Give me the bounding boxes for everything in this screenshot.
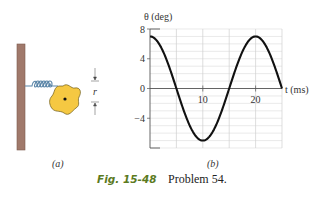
panel-a-label: (a) xyxy=(52,158,64,169)
y-tick-label: 8 xyxy=(140,24,145,35)
panel-a: r xyxy=(17,44,99,150)
y-tick-label: 0 xyxy=(140,83,145,94)
chart: 840−41020θ (deg)t (ms) xyxy=(134,11,308,148)
dimension-label: r xyxy=(93,86,97,97)
x-axis-label: t (ms) xyxy=(285,84,309,96)
figure-caption: Fig. 15-48 Problem 54. xyxy=(97,172,327,187)
x-tick-label: 10 xyxy=(198,94,208,105)
y-tick-label: −4 xyxy=(134,113,145,124)
pivot-dot xyxy=(63,97,66,100)
figure-canvas: r 840−41020θ (deg)t (ms) xyxy=(0,0,327,201)
y-axis-label: θ (deg) xyxy=(144,11,172,23)
y-tick-label: 4 xyxy=(140,53,145,64)
wall xyxy=(17,44,25,150)
spring-icon xyxy=(25,81,58,87)
panel-b-label: (b) xyxy=(207,158,219,169)
x-tick-label: 20 xyxy=(251,94,261,105)
figure-number: Fig. 15-48 xyxy=(97,173,157,185)
caption-text: Problem 54. xyxy=(168,172,227,186)
